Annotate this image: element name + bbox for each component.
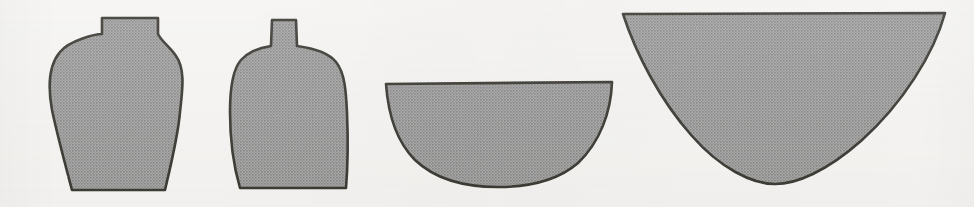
vessel-profile-plate (0, 0, 974, 207)
plate-canvas (0, 0, 974, 207)
figure-globular-jar (50, 18, 183, 190)
